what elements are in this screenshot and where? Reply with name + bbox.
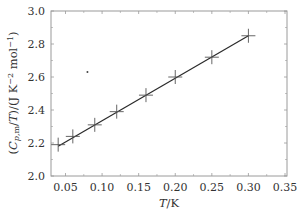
- x-tick-label: 0.20: [163, 181, 188, 194]
- fit-line: [58, 36, 248, 147]
- x-tick-label: 0.05: [53, 181, 78, 194]
- y-tick-label: 2.4: [28, 104, 46, 117]
- stray-dot: [86, 71, 88, 73]
- y-tick-labels: 2.02.22.42.62.83.0: [28, 5, 46, 183]
- data-point-marker: [205, 50, 219, 64]
- regression-line: [58, 36, 248, 147]
- y-tick-label: 2.2: [28, 137, 46, 150]
- annotations: [86, 71, 88, 73]
- x-tick-label: 0.25: [200, 181, 225, 194]
- chart: 0.050.100.150.200.250.300.35 2.02.22.42.…: [0, 0, 303, 215]
- y-tick-label: 3.0: [28, 5, 46, 18]
- data-point-marker: [139, 88, 153, 102]
- x-tick-label: 0.15: [126, 181, 151, 194]
- x-tick-label: 0.35: [273, 181, 298, 194]
- data-point-marker: [88, 118, 102, 132]
- x-tick-labels: 0.050.100.150.200.250.300.35: [53, 181, 297, 194]
- y-tick-label: 2.0: [28, 170, 46, 183]
- x-axis-title: T/K: [159, 196, 180, 210]
- x-tick-label: 0.10: [90, 181, 115, 194]
- y-tick-label: 2.8: [28, 38, 46, 51]
- data-point-marker: [110, 105, 124, 119]
- data-point-marker: [241, 29, 255, 43]
- y-axis-title: (Cp,m/T)/(J K−2 mol−1): [6, 31, 21, 154]
- x-tick-label: 0.30: [236, 181, 261, 194]
- data-point-marker: [51, 138, 65, 152]
- data-point-marker: [168, 70, 182, 84]
- y-tick-label: 2.6: [28, 71, 46, 84]
